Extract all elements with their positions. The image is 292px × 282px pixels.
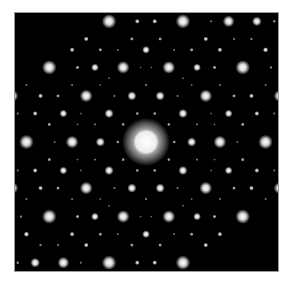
diffraction-pattern-canvas: [0, 0, 292, 282]
